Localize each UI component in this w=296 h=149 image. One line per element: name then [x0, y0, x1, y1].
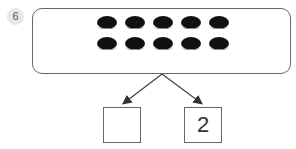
part-box-right: 2: [184, 107, 222, 143]
part-box-left[interactable]: [103, 107, 141, 143]
arrow-right-icon: [162, 74, 201, 103]
arrow-left-icon: [124, 74, 162, 103]
bond-arrows: [0, 0, 296, 149]
